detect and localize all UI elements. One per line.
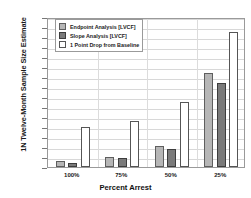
y-axis-tick-mark: [42, 108, 47, 109]
chart-legend: Endpoint Analysis [LVCF] Slope Analysis …: [55, 19, 143, 52]
y-axis-tick-mark: [42, 148, 47, 149]
bar-endpoint-75pct: [105, 157, 114, 167]
bar-slope-75pct: [118, 158, 127, 167]
y-axis-tick-mark: [42, 68, 47, 69]
gridline-horizontal: [48, 89, 244, 90]
y-axis-tick-mark: [42, 118, 47, 119]
bar-endpoint-100pct: [56, 161, 65, 167]
x-axis-title: Percent Arrest: [0, 183, 251, 192]
legend-label-onepoint: 1 Point Drop from Baseline: [70, 42, 139, 48]
gridline-horizontal: [48, 159, 244, 160]
y-axis-tick-mark: [42, 78, 47, 79]
gridline-horizontal: [48, 69, 244, 70]
bar-onepoint-75pct: [130, 121, 139, 167]
legend-item-slope[interactable]: Slope Analysis [LVCF]: [59, 31, 139, 40]
x-axis-tick-label: 75%: [101, 172, 141, 178]
gridline-vertical: [197, 19, 198, 167]
x-axis-tick-label: 25%: [200, 172, 240, 178]
legend-swatch-onepoint-icon: [59, 41, 66, 48]
gridline-vertical: [147, 19, 148, 167]
y-axis-tick-mark: [42, 98, 47, 99]
bar-onepoint-50pct: [180, 102, 189, 167]
y-axis-tick-mark: [42, 88, 47, 89]
bar-endpoint-50pct: [155, 146, 164, 167]
gridline-horizontal: [48, 149, 244, 150]
y-axis-tick-mark: [42, 158, 47, 159]
y-axis-tick-mark: [42, 48, 47, 49]
legend-item-endpoint[interactable]: Endpoint Analysis [LVCF]: [59, 22, 139, 31]
bar-slope-100pct: [68, 163, 77, 168]
y-axis-tick-mark: [42, 138, 47, 139]
legend-label-slope: Slope Analysis [LVCF]: [70, 33, 127, 39]
gridline-horizontal: [48, 119, 244, 120]
x-axis-tick-label: 50%: [151, 172, 191, 178]
legend-swatch-slope-icon: [59, 32, 66, 39]
legend-label-endpoint: Endpoint Analysis [LVCF]: [70, 24, 136, 30]
x-axis-tick-label: 100%: [52, 172, 92, 178]
y-axis-tick-mark: [42, 38, 47, 39]
y-axis-tick-mark: [42, 58, 47, 59]
gridline-horizontal: [48, 79, 244, 80]
y-axis-title: 1N Twelve-Month Sample Size Estimate: [19, 0, 28, 170]
legend-swatch-endpoint-icon: [59, 23, 66, 30]
bar-slope-25pct: [217, 83, 226, 167]
chart-figure: 1N Twelve-Month Sample Size Estimate Per…: [0, 0, 251, 198]
bar-onepoint-100pct: [81, 127, 90, 167]
y-axis-tick-mark: [42, 168, 47, 169]
gridline-horizontal: [48, 139, 244, 140]
legend-item-onepoint[interactable]: 1 Point Drop from Baseline: [59, 40, 139, 49]
gridline-horizontal: [48, 109, 244, 110]
bar-onepoint-25pct: [229, 32, 238, 167]
y-axis-tick-mark: [42, 128, 47, 129]
bar-slope-50pct: [167, 149, 176, 167]
gridline-horizontal: [48, 59, 244, 60]
gridline-horizontal: [48, 129, 244, 130]
y-axis-tick-mark: [42, 28, 47, 29]
y-axis-tick-mark: [42, 18, 47, 19]
gridline-horizontal: [48, 99, 244, 100]
bar-endpoint-25pct: [204, 73, 213, 167]
